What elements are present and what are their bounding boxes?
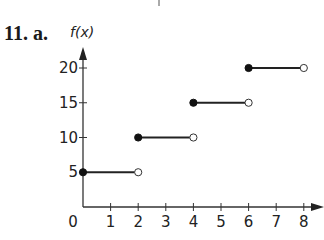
y-tick-label: 15	[59, 94, 78, 112]
x-tick-label: 8	[299, 213, 309, 231]
problem-label: 11. a.	[4, 22, 48, 44]
closed-endpoint	[79, 169, 86, 176]
open-endpoint	[135, 169, 142, 176]
y-tick-label: 10	[59, 129, 78, 147]
x-tick-label: 6	[244, 213, 254, 231]
x-axis-arrow-icon	[311, 203, 324, 211]
y-axis-arrow-icon	[79, 47, 87, 60]
y-tick-label: 20	[59, 59, 78, 77]
open-endpoint	[245, 99, 252, 106]
axes	[79, 47, 324, 211]
closed-endpoint	[135, 134, 142, 141]
closed-endpoint	[245, 64, 252, 71]
step-function-chart: 11. a. f(x) 0123456785101520	[0, 0, 324, 240]
step-segments	[79, 64, 307, 175]
x-tick-label: 3	[161, 213, 171, 231]
x-tick-label: 1	[106, 213, 116, 231]
ticks: 0123456785101520	[59, 59, 309, 231]
closed-endpoint	[190, 99, 197, 106]
x-tick-label: 7	[271, 213, 281, 231]
x-tick-label: 5	[216, 213, 226, 231]
y-tick-label: 5	[68, 163, 78, 181]
y-axis-title: f(x)	[70, 24, 94, 40]
open-endpoint	[190, 134, 197, 141]
x-tick-label: 4	[189, 213, 199, 231]
x-tick-label: 2	[133, 213, 143, 231]
open-endpoint	[300, 64, 307, 71]
x-tick-label: 0	[68, 213, 78, 231]
